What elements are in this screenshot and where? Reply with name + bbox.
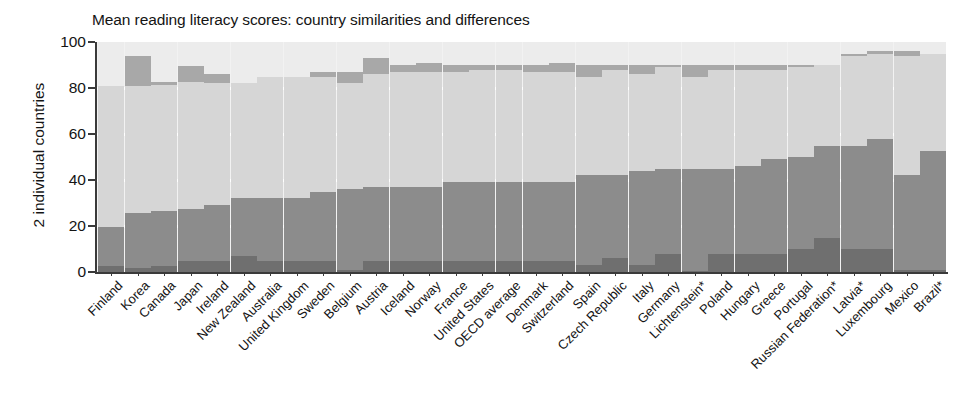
x-tick-mark (615, 272, 616, 276)
x-tick-mark (456, 272, 457, 276)
bar-segment (867, 54, 893, 139)
x-tick-label: Finland (85, 278, 126, 319)
bar-segment (788, 67, 814, 157)
bar-segment (363, 187, 389, 261)
bar-segment (204, 83, 230, 205)
bar-segment (337, 72, 363, 84)
bar-segment (469, 261, 495, 273)
x-tick-mark (244, 272, 245, 276)
bar-segment (761, 254, 787, 272)
bar-segment (443, 65, 469, 72)
x-tick-mark (642, 272, 643, 276)
x-tick-mark (880, 272, 881, 276)
x-tick-mark (509, 272, 510, 276)
x-tick-mark (748, 272, 749, 276)
bar-segment (257, 42, 283, 77)
bar-segment (416, 42, 442, 63)
x-tick-mark (403, 272, 404, 276)
bar-segment (549, 42, 575, 63)
bar-segment (629, 42, 655, 65)
bar-segment (469, 182, 495, 260)
bar-segment (231, 198, 257, 256)
x-tick-mark (536, 272, 537, 276)
bar-segment (496, 70, 522, 183)
bar-segment (337, 42, 363, 72)
x-tick-mark (907, 272, 908, 276)
bar-segment (576, 77, 602, 176)
bar-segment (257, 198, 283, 260)
bar-segment (363, 261, 389, 273)
bar-segment (814, 65, 840, 146)
bar-segment (602, 70, 628, 176)
x-tick-mark (164, 272, 165, 276)
x-axis-tick-labels: FinlandKoreaCanadaJapanIrelandNew Zealan… (0, 272, 953, 413)
x-tick-mark (191, 272, 192, 276)
x-tick-mark (668, 272, 669, 276)
bar-segment (682, 42, 708, 65)
bar-segment (920, 54, 946, 151)
bar-segment (655, 65, 681, 67)
bar-segment (894, 175, 920, 269)
bar-segment (655, 254, 681, 272)
x-tick-mark (323, 272, 324, 276)
bar-segment (390, 261, 416, 273)
bar-segment (655, 67, 681, 168)
bar-segment (204, 42, 230, 74)
y-tick-mark (88, 179, 95, 181)
bar-segment (682, 169, 708, 271)
bar-segment (390, 72, 416, 187)
bar-segment (629, 74, 655, 171)
bar-segment (284, 261, 310, 273)
bar-segment (98, 42, 124, 86)
bar-segment (390, 65, 416, 72)
bar-segment (841, 56, 867, 146)
bar-segment (496, 182, 522, 260)
bar-segment (788, 42, 814, 65)
bar-segment (284, 77, 310, 199)
bar-segment (284, 42, 310, 77)
bar-segment (814, 146, 840, 238)
y-tick-label: 40 (50, 172, 86, 188)
bar-segment (655, 169, 681, 254)
bar-segment (416, 63, 442, 72)
bar-segment (125, 86, 151, 214)
bar-segment (867, 51, 893, 53)
bar-segment (390, 187, 416, 261)
bar-segment (443, 261, 469, 273)
bar-segment (310, 42, 336, 72)
bar-segment (735, 166, 761, 253)
bar-segment (735, 42, 761, 65)
x-tick-mark (350, 272, 351, 276)
bar-segment (178, 66, 204, 82)
bar-segment (416, 72, 442, 187)
bar-segment (814, 42, 840, 65)
bar-segment (257, 261, 283, 273)
bar-segment (602, 175, 628, 258)
bar-segment (337, 83, 363, 189)
bar-segment (602, 65, 628, 70)
bar-segment (469, 42, 495, 65)
bar-segment (204, 261, 230, 273)
y-tick-mark (88, 41, 95, 43)
y-tick-mark (88, 133, 95, 135)
bar-segment (231, 42, 257, 83)
x-tick-mark (217, 272, 218, 276)
bar-segment (178, 82, 204, 209)
bar-segment (761, 65, 787, 70)
bar-segment (257, 77, 283, 199)
bar-segment (576, 65, 602, 77)
bar-segment (523, 261, 549, 273)
bar-segment (178, 209, 204, 261)
bar-segment (363, 74, 389, 187)
bar-segment (151, 82, 177, 84)
bar-segment (576, 265, 602, 272)
bar-segment (151, 42, 177, 82)
bar-segment (708, 70, 734, 169)
bar-segment (841, 42, 867, 54)
bar-segment (443, 72, 469, 182)
bar-segment (920, 151, 946, 271)
bar-segment (867, 139, 893, 249)
bar-segment (708, 42, 734, 65)
bar-segment (363, 42, 389, 58)
bar-segment (788, 65, 814, 67)
